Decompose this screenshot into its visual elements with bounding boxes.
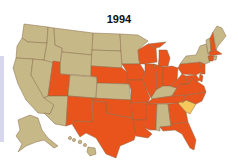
state-colorado xyxy=(68,75,97,98)
state-wyoming xyxy=(60,52,92,76)
state-new-york xyxy=(180,44,210,64)
state-michigan-lower xyxy=(158,50,170,67)
state-rhode-island xyxy=(213,56,217,60)
state-hawaii xyxy=(68,136,96,156)
state-arkansas xyxy=(131,102,148,120)
state-south-dakota xyxy=(91,50,122,68)
state-north-dakota xyxy=(92,33,121,51)
state-kansas xyxy=(96,83,131,100)
state-washington xyxy=(22,24,48,43)
state-delaware xyxy=(199,74,203,82)
state-mississippi xyxy=(145,104,157,130)
us-map xyxy=(0,0,238,168)
